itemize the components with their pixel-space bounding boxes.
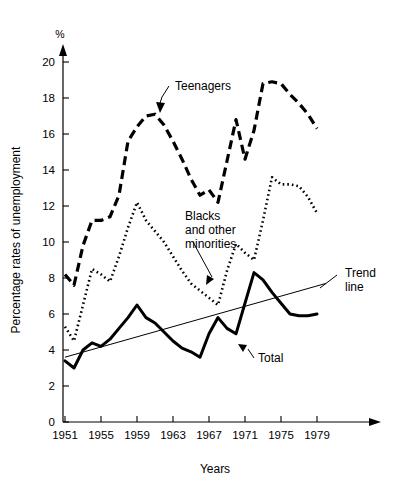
- y-axis-title: Percentage rates of unemployment: [9, 146, 23, 333]
- annotation-label-total: Total: [258, 351, 283, 365]
- y-axis: [59, 44, 67, 422]
- x-axis-title: Years: [200, 462, 230, 476]
- x-tick-label: 1979: [304, 429, 330, 441]
- annotation-label-blacks-and-other-minorities: and other: [185, 223, 236, 237]
- x-tick-label: 1959: [124, 429, 150, 441]
- annotation-label-blacks-and-other-minorities: minorities: [185, 237, 236, 251]
- x-tick-group: 19511955195919631967197119751979: [52, 416, 330, 441]
- y-tick-label: 12: [42, 200, 55, 212]
- series-line-blacks-and-other-minorities: [65, 177, 317, 341]
- annotation-label-trend-line: line: [345, 280, 364, 294]
- y-tick-label: 14: [42, 164, 55, 176]
- annotation-leader-teenagers: [160, 86, 169, 103]
- annotation-leader-total: [248, 349, 254, 358]
- x-tick-label: 1971: [232, 429, 258, 441]
- y-tick-label: 8: [49, 272, 55, 284]
- y-tick-label: 10: [42, 236, 55, 248]
- x-tick-label: 1963: [160, 429, 186, 441]
- annotation-label-blacks-and-other-minorities: Blacks: [185, 209, 220, 223]
- y-axis-unit-label: %: [55, 28, 64, 40]
- y-tick-label: 16: [42, 128, 55, 140]
- x-axis: [63, 418, 381, 426]
- y-tick-group: 02468101214161820: [42, 56, 69, 428]
- y-tick-label: 18: [42, 92, 55, 104]
- x-tick-label: 1967: [196, 429, 222, 441]
- chart-canvas: 02468101214161820 1951195519591963196719…: [0, 0, 394, 489]
- y-axis-arrowhead: [59, 44, 67, 56]
- x-tick-label: 1951: [52, 429, 78, 441]
- x-axis-arrowhead: [369, 418, 381, 426]
- trend-line-group: [65, 283, 326, 357]
- y-tick-label: 6: [49, 308, 55, 320]
- annotation-leader-trend-line: [320, 275, 337, 288]
- x-tick-label: 1975: [268, 429, 294, 441]
- annotation-arrow-teenagers: [156, 102, 165, 113]
- unemployment-line-chart: 02468101214161820 1951195519591963196719…: [0, 0, 394, 489]
- annotation-arrow-total: [238, 344, 247, 352]
- y-tick-label: 4: [49, 344, 56, 356]
- annotation-label-teenagers: Teenagers: [175, 79, 231, 93]
- x-tick-label: 1955: [88, 429, 114, 441]
- annotation-arrow-blacks-and-other-minorities: [206, 275, 214, 285]
- annotation-label-trend-line: Trend: [345, 266, 376, 280]
- y-tick-label: 2: [49, 380, 55, 392]
- y-tick-label: 20: [42, 56, 55, 68]
- trend-line: [65, 283, 326, 357]
- y-tick-label: 0: [49, 416, 55, 428]
